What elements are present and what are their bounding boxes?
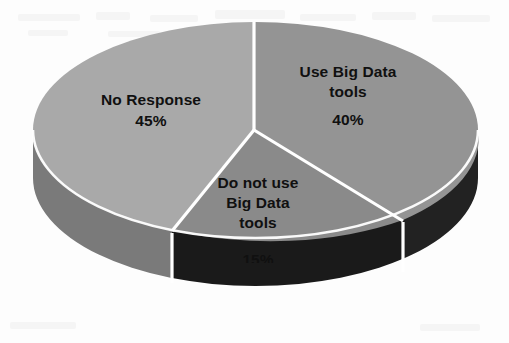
pie-top-face bbox=[33, 22, 479, 241]
pie-chart-figure: Use Big Data tools 40% No Response 45% D… bbox=[0, 0, 509, 343]
pie-chart-graphic bbox=[0, 0, 509, 343]
